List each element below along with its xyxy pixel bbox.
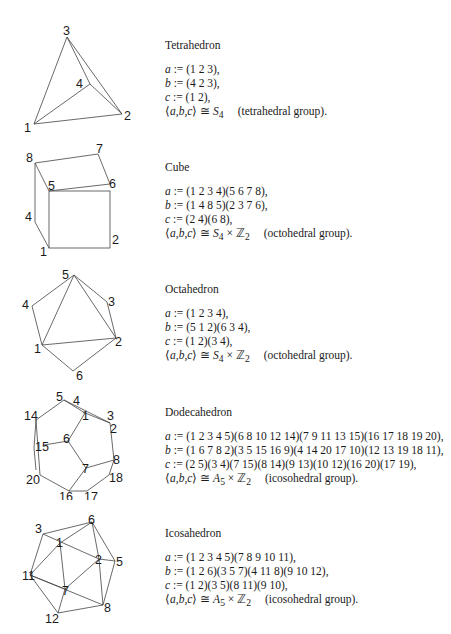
vertex-label: 16: [59, 490, 73, 500]
vertex-label: 4: [73, 394, 80, 408]
vertex-label: 6: [88, 513, 95, 527]
generator-a: a := (1 2 3 4 5)(7 8 9 10 11),: [165, 550, 358, 564]
vertex-label: 1: [24, 121, 31, 135]
vertex-label: 7: [62, 584, 69, 598]
group-name: (tetrahedral group).: [238, 105, 327, 117]
vertex-label: 1: [82, 409, 89, 423]
generator-b: b := (5 1 2)(6 3 4),: [165, 320, 352, 334]
group-name: (icosohedral group).: [265, 472, 358, 484]
generator-c: c := (2 5)(3 4)(7 15)(8 14)(9 13)(10 12)…: [165, 457, 444, 471]
vertex-label: 18: [109, 471, 123, 485]
vertex-label: 6: [109, 177, 116, 191]
vertex-label: 7: [82, 462, 89, 476]
vertex-label: 2: [95, 553, 102, 567]
vertex-label: 14: [24, 409, 38, 423]
vertex-label: 2: [110, 422, 117, 436]
generator-b: b := (4 2 3),: [165, 76, 327, 90]
tetrahedron-figure: 3 4 2 1: [0, 0, 150, 140]
solid-title: Icosahedron: [165, 526, 358, 540]
vertex-label: 4: [25, 210, 32, 224]
octahedron-figure: 5 4 3 1 2 6: [0, 260, 150, 380]
generator-b: b := (1 2 6)(3 5 7)(4 11 8)(9 10 12),: [165, 564, 358, 578]
dodecahedron-description: Dodecahedron a := (1 2 3 4 5)(6 8 10 12 …: [165, 405, 444, 489]
vertex-label: 8: [113, 453, 120, 467]
generator-a: a := (1 2 3 4),: [165, 306, 352, 320]
group-name: (octohedral group).: [264, 227, 353, 239]
vertex-label: 4: [76, 77, 83, 91]
solid-title: Dodecahedron: [165, 405, 444, 419]
vertex-label: 3: [107, 409, 114, 423]
generator-c: c := (2 4)(6 8),: [165, 212, 352, 226]
tetrahedron-description: Tetrahedron a := (1 2 3), b := (4 2 3), …: [165, 38, 327, 122]
group-isomorphism: ⟨a,b,c⟩ ≅ S4 × ℤ2(octohedral group).: [165, 226, 352, 244]
group-name: (octohedral group).: [264, 349, 353, 361]
dodecahedron-figure: 5 4 1 3 2 14 6 15 8 7 18 20 16 17: [0, 380, 150, 500]
vertex-label: 20: [26, 473, 40, 487]
vertex-label: 1: [34, 342, 41, 356]
vertex-label: 1: [40, 245, 47, 259]
generator-a: a := (1 2 3 4)(5 6 7 8),: [165, 184, 352, 198]
group-isomorphism: ⟨a,b,c⟩ ≅ S4(tetrahedral group).: [165, 104, 327, 122]
vertex-label: 3: [35, 522, 42, 536]
vertex-label: 8: [26, 151, 33, 165]
solid-title: Cube: [165, 160, 352, 174]
cube-description: Cube a := (1 2 3 4)(5 6 7 8), b := (1 4 …: [165, 160, 352, 244]
generator-a: a := (1 2 3 4 5)(6 8 10 12 14)(7 9 11 13…: [165, 429, 444, 443]
vertex-label: 5: [56, 390, 63, 404]
octahedron-description: Octahedron a := (1 2 3 4), b := (5 1 2)(…: [165, 282, 352, 366]
group-isomorphism: ⟨a,b,c⟩ ≅ A5 × ℤ2(icosohedral group).: [165, 471, 444, 489]
vertex-label: 1: [56, 536, 63, 550]
vertex-label: 2: [112, 233, 119, 247]
vertex-label: 2: [115, 335, 122, 349]
vertex-label: 4: [22, 298, 29, 312]
vertex-label: 15: [35, 440, 49, 454]
generator-c: c := (1 2)(3 5)(8 11)(9 10),: [165, 578, 358, 592]
icosahedron-figure: 3 6 1 2 5 11 7 8 12: [0, 500, 150, 634]
generator-b: b := (1 6 7 8 2)(3 5 15 16 9)(4 14 20 17…: [165, 443, 444, 457]
vertex-label: 3: [108, 295, 115, 309]
vertex-label: 6: [63, 432, 70, 446]
solid-title: Tetrahedron: [165, 38, 327, 52]
generator-b: b := (1 4 8 5)(2 3 7 6),: [165, 198, 352, 212]
vertex-label: 6: [76, 369, 83, 380]
vertex-label: 7: [96, 142, 103, 156]
generator-a: a := (1 2 3),: [165, 62, 327, 76]
vertex-label: 3: [63, 24, 70, 38]
icosahedron-description: Icosahedron a := (1 2 3 4 5)(7 8 9 10 11…: [165, 526, 358, 610]
vertex-label: 17: [84, 490, 98, 500]
vertex-label: 5: [62, 268, 69, 282]
solid-title: Octahedron: [165, 282, 352, 296]
vertex-label: 5: [48, 179, 55, 193]
vertex-label: 11: [22, 569, 35, 583]
group-name: (icosohedral group).: [265, 593, 358, 605]
generator-c: c := (1 2),: [165, 90, 327, 104]
generator-c: c := (1 2)(3 4),: [165, 334, 352, 348]
vertex-label: 2: [124, 109, 131, 123]
vertex-label: 5: [116, 555, 123, 569]
group-isomorphism: ⟨a,b,c⟩ ≅ A5 × ℤ2(icosohedral group).: [165, 592, 358, 610]
group-isomorphism: ⟨a,b,c⟩ ≅ S4 × ℤ2(octohedral group).: [165, 348, 352, 366]
vertex-label: 12: [45, 612, 59, 626]
vertex-label: 8: [104, 601, 111, 615]
cube-figure: 8 7 5 6 4 2 1: [0, 140, 150, 260]
